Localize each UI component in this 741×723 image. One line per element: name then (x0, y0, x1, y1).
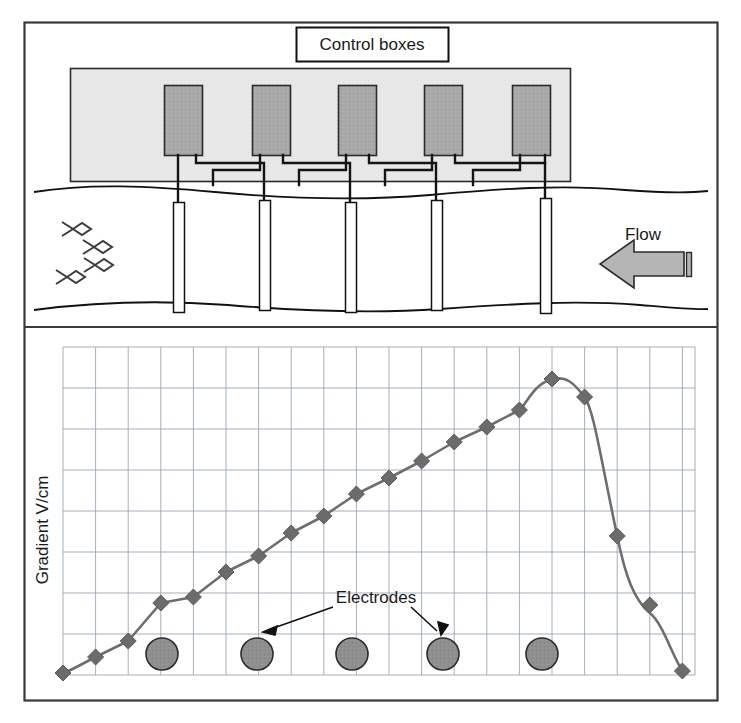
figure-svg: Control boxes (0, 0, 741, 723)
support-structure (71, 69, 571, 182)
submerged-electrode (346, 203, 357, 313)
submerged-electrode (174, 203, 185, 313)
electrode-marker (146, 638, 178, 670)
control-box (339, 86, 377, 156)
control-box (513, 86, 551, 156)
control-boxes-label: Control boxes (320, 35, 425, 54)
electrode-marker (241, 638, 273, 670)
submerged-electrode (432, 201, 443, 311)
control-box (165, 86, 203, 156)
flow-label: Flow (625, 225, 662, 244)
control-box (425, 86, 463, 156)
electrodes-label: Electrodes (336, 588, 416, 607)
electrode-marker (427, 638, 459, 670)
flow-arrow-tail (687, 253, 692, 277)
control-box (253, 86, 291, 156)
submerged-electrode (541, 199, 552, 314)
y-axis-label: Gradient V/cm (33, 476, 52, 585)
figure-container: Control boxes (0, 0, 741, 723)
electrode-marker (336, 638, 368, 670)
electrode-marker (526, 638, 558, 670)
submerged-electrode (260, 201, 271, 311)
